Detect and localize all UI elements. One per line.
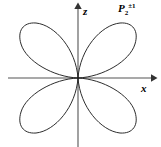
function-label-base: P — [118, 2, 125, 14]
function-label: P2±1 — [118, 3, 136, 17]
function-label-subscript: 2 — [125, 9, 129, 17]
plot-canvas — [0, 0, 161, 147]
lower-right-lobe — [78, 78, 136, 133]
function-label-superscript: ±1 — [128, 2, 135, 10]
upper-left-lobe — [20, 23, 78, 78]
legendre-polar-plot-figure: z x P2±1 — [0, 0, 161, 147]
z-axis-arrowhead-icon — [74, 3, 81, 10]
x-axis-label: x — [141, 83, 147, 94]
upper-right-lobe — [78, 23, 136, 78]
x-axis-arrowhead-icon — [151, 74, 158, 82]
z-axis-label: z — [83, 6, 87, 17]
lower-left-lobe — [20, 78, 78, 133]
